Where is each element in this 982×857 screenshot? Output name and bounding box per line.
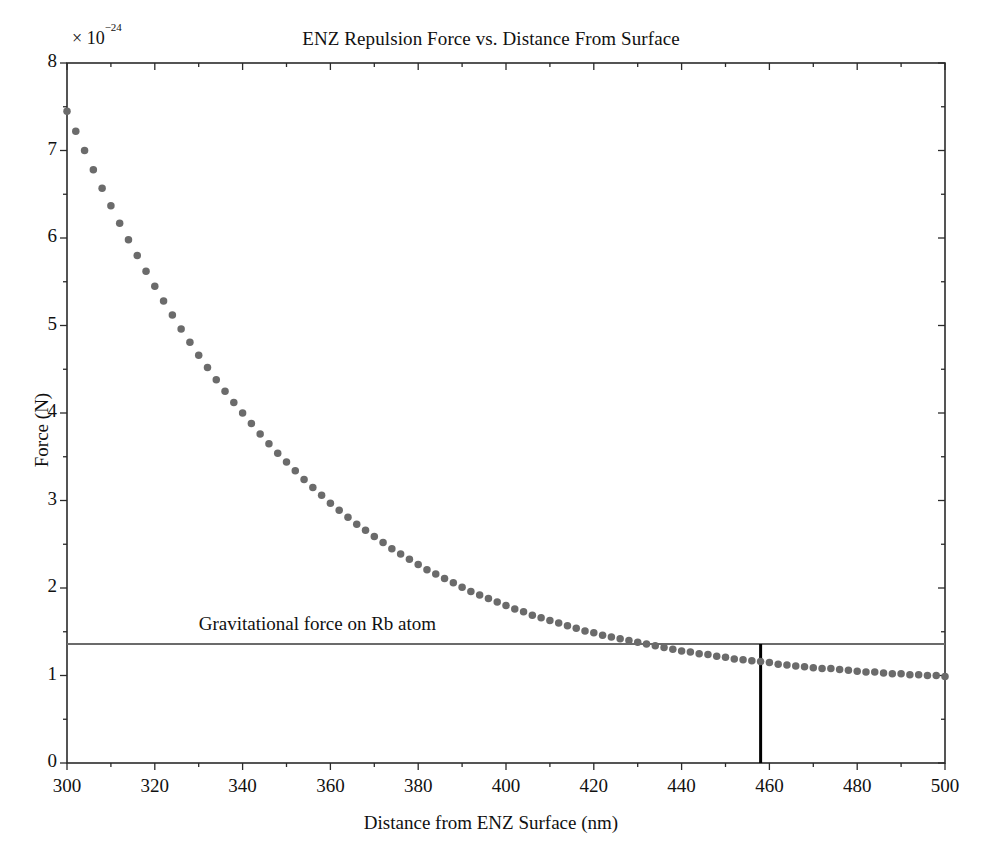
data-point xyxy=(880,669,888,677)
data-point xyxy=(590,629,598,637)
data-point xyxy=(757,658,765,666)
x-axis-tick-label: 500 xyxy=(910,775,980,797)
data-point xyxy=(748,657,756,665)
data-point xyxy=(248,420,256,428)
data-point xyxy=(362,527,370,535)
data-point xyxy=(169,311,177,319)
data-point xyxy=(792,662,800,670)
data-point xyxy=(213,376,221,384)
y-axis-tick-label: 3 xyxy=(17,488,57,510)
data-point xyxy=(72,128,80,136)
data-point xyxy=(195,352,203,360)
data-point xyxy=(309,484,317,492)
data-point xyxy=(327,499,335,507)
plot-area xyxy=(0,0,982,857)
data-point xyxy=(467,588,475,596)
data-point xyxy=(897,670,905,678)
data-point xyxy=(652,642,660,650)
data-point xyxy=(643,640,651,648)
data-point xyxy=(450,579,458,587)
x-axis-tick-label: 320 xyxy=(120,775,190,797)
data-point xyxy=(265,440,273,448)
data-point xyxy=(555,619,563,627)
data-point xyxy=(827,665,835,673)
data-point xyxy=(572,625,580,633)
data-point xyxy=(142,268,150,276)
data-point xyxy=(125,236,133,244)
y-axis-tick-label: 5 xyxy=(17,313,57,335)
data-point xyxy=(836,666,844,674)
data-point xyxy=(511,605,519,613)
data-point xyxy=(300,476,308,484)
data-point xyxy=(432,570,440,578)
data-point xyxy=(722,653,730,661)
data-point xyxy=(608,633,616,641)
x-axis-tick-label: 420 xyxy=(559,775,629,797)
data-point xyxy=(731,655,739,663)
data-point xyxy=(704,651,712,659)
data-point xyxy=(116,219,124,227)
data-point xyxy=(423,566,431,574)
y-axis-tick-label: 4 xyxy=(17,400,57,422)
data-point xyxy=(853,667,861,675)
data-point xyxy=(862,668,870,676)
data-point xyxy=(318,492,326,500)
data-point xyxy=(230,399,238,407)
gravitational-force-annotation: Gravitational force on Rb atom xyxy=(199,613,436,635)
data-point xyxy=(546,617,554,625)
data-point xyxy=(818,665,826,673)
data-point xyxy=(616,635,624,643)
y-axis-tick-label: 8 xyxy=(17,50,57,72)
data-point xyxy=(529,611,537,619)
data-point xyxy=(379,539,387,547)
figure-canvas: ENZ Repulsion Force vs. Distance From Su… xyxy=(0,0,982,857)
data-point xyxy=(107,202,115,210)
data-point xyxy=(801,663,809,671)
data-point xyxy=(63,107,71,115)
data-point xyxy=(476,591,484,599)
data-point xyxy=(151,282,159,290)
data-point xyxy=(906,671,914,679)
data-series-enz-repulsion-force xyxy=(63,107,949,680)
data-point xyxy=(766,659,774,667)
data-point xyxy=(660,644,668,652)
data-point xyxy=(625,637,633,645)
data-point xyxy=(599,632,607,640)
x-axis-tick-label: 380 xyxy=(383,775,453,797)
data-point xyxy=(669,646,677,654)
data-point xyxy=(441,575,449,583)
data-point xyxy=(932,672,940,680)
data-point xyxy=(204,364,212,372)
y-axis-tick-label: 6 xyxy=(17,225,57,247)
data-point xyxy=(177,325,185,333)
data-point xyxy=(713,653,721,661)
data-point xyxy=(783,661,791,669)
data-point xyxy=(871,668,879,676)
data-point xyxy=(414,561,422,569)
data-point xyxy=(581,627,589,635)
data-point xyxy=(344,513,352,521)
axes-box xyxy=(67,63,945,763)
data-point xyxy=(810,664,818,672)
data-point xyxy=(845,667,853,675)
data-point xyxy=(388,545,396,553)
data-point xyxy=(239,409,247,417)
x-axis-tick-label: 300 xyxy=(32,775,102,797)
data-point xyxy=(186,338,194,346)
data-point xyxy=(520,608,528,616)
data-point xyxy=(915,671,923,679)
data-point xyxy=(634,639,642,647)
x-axis-tick-label: 460 xyxy=(734,775,804,797)
data-point xyxy=(924,672,932,680)
data-point xyxy=(502,602,510,610)
x-axis-tick-label: 400 xyxy=(471,775,541,797)
data-point xyxy=(353,520,361,528)
data-point xyxy=(493,598,501,606)
data-point xyxy=(283,458,291,466)
data-point xyxy=(739,656,747,664)
data-point xyxy=(406,555,414,563)
data-point xyxy=(537,614,545,622)
data-point xyxy=(695,650,703,658)
data-point xyxy=(397,550,405,558)
data-point xyxy=(90,166,98,174)
